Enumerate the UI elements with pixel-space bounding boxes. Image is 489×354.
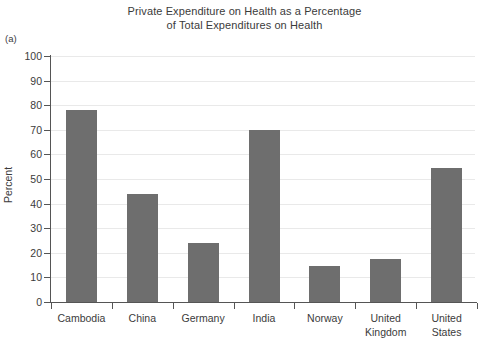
bar xyxy=(66,110,97,302)
y-tick-label: 0 xyxy=(2,296,42,308)
x-category-label-line: Kingdom xyxy=(355,325,416,339)
y-axis-tick-labels: 0102030405060708090100 xyxy=(0,0,42,354)
x-category-label-line: United xyxy=(416,311,477,325)
x-category-label: UnitedKingdom xyxy=(355,311,416,339)
x-category-label-line: China xyxy=(112,311,173,325)
title-line-1: Private Expenditure on Health as a Perce… xyxy=(0,4,489,18)
gridline xyxy=(51,81,475,82)
y-tick-label: 100 xyxy=(2,50,42,62)
x-tick-mark xyxy=(173,303,174,309)
x-category-label: India xyxy=(234,311,295,325)
x-category-label-line: Germany xyxy=(173,311,234,325)
x-tick-mark xyxy=(234,303,235,309)
x-category-label: Cambodia xyxy=(51,311,112,325)
y-tick-label: 60 xyxy=(2,148,42,160)
y-tick-label: 50 xyxy=(2,173,42,185)
bar xyxy=(249,130,280,302)
x-tick-mark xyxy=(416,303,417,309)
x-category-label: Germany xyxy=(173,311,234,325)
y-tick-label: 10 xyxy=(2,271,42,283)
x-category-label: Norway xyxy=(294,311,355,325)
plot-area xyxy=(51,56,477,302)
y-tick-label: 30 xyxy=(2,222,42,234)
x-category-label-line: States xyxy=(416,325,477,339)
y-tick-label: 90 xyxy=(2,75,42,87)
x-category-label-line: Norway xyxy=(294,311,355,325)
y-tick-label: 80 xyxy=(2,99,42,111)
gridline xyxy=(51,302,475,303)
bar xyxy=(188,243,219,302)
bar xyxy=(431,168,462,302)
bar xyxy=(127,194,158,302)
page-title: Private Expenditure on Health as a Perce… xyxy=(0,4,489,32)
title-line-2: of Total Expenditures on Health xyxy=(0,18,489,32)
x-tick-mark xyxy=(355,303,356,309)
y-tick-label: 70 xyxy=(2,124,42,136)
bar xyxy=(309,266,340,302)
y-tick-label: 20 xyxy=(2,247,42,259)
gridline xyxy=(51,105,475,106)
x-category-label-line: Cambodia xyxy=(51,311,112,325)
x-category-label: China xyxy=(112,311,173,325)
x-tick-mark xyxy=(477,303,478,309)
x-tick-mark xyxy=(51,303,52,309)
x-tick-mark xyxy=(112,303,113,309)
bar xyxy=(370,259,401,302)
x-tick-mark xyxy=(294,303,295,309)
x-category-label: UnitedStates xyxy=(416,311,477,339)
x-category-label-line: India xyxy=(234,311,295,325)
x-axis-category-labels: CambodiaChinaGermanyIndiaNorwayUnitedKin… xyxy=(51,311,477,353)
y-tick-label: 40 xyxy=(2,198,42,210)
x-category-label-line: United xyxy=(355,311,416,325)
gridline xyxy=(51,56,475,57)
